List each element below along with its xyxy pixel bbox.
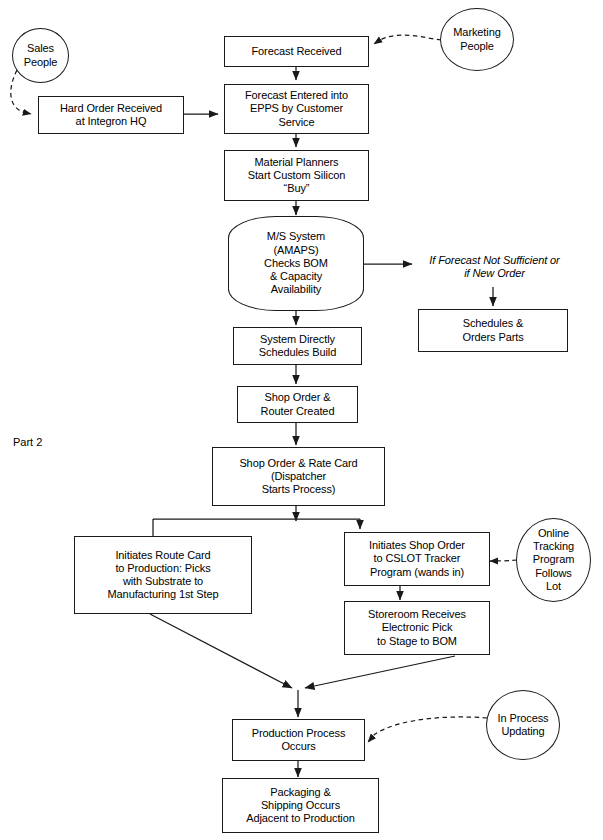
node-storeroom-receives-label: Storeroom Receives Electronic Pick to St…	[368, 608, 466, 648]
node-production-process-occurs[interactable]: Production Process Occurs	[232, 719, 365, 761]
node-schedules-orders-parts[interactable]: Schedules & Orders Parts	[418, 309, 568, 352]
node-material-planners-label: Material Planners Start Custom Silicon “…	[248, 156, 346, 196]
node-initiates-cslot-tracker[interactable]: Initiates Shop Order to CSLOT Tracker Pr…	[344, 532, 490, 586]
node-online-tracking-program-label: Online Tracking Program Follows Lot	[533, 527, 574, 593]
node-system-directly-schedules-build[interactable]: System Directly Schedules Build	[233, 327, 362, 365]
connector-in-process-to-production	[368, 717, 487, 742]
node-shop-order-router-created-label: Shop Order & Router Created	[261, 391, 335, 417]
node-initiates-cslot-tracker-label: Initiates Shop Order to CSLOT Tracker Pr…	[369, 539, 465, 579]
node-in-process-updating-label: In Process Updating	[498, 712, 549, 738]
node-forecast-received-label: Forecast Received	[251, 45, 341, 58]
node-shop-order-rate-card-label: Shop Order & Rate Card (Dispatcher Start…	[239, 457, 357, 497]
node-sales-people-label: Sales People	[24, 42, 58, 68]
node-in-process-updating[interactable]: In Process Updating	[486, 690, 560, 760]
node-initiates-route-card[interactable]: Initiates Route Card to Production: Pick…	[74, 536, 252, 614]
node-packaging-shipping[interactable]: Packaging & Shipping Occurs Adjacent to …	[222, 778, 379, 833]
node-forecast-condition-label: If Forecast Not Sufficient or if New Ord…	[429, 254, 559, 280]
node-online-tracking-program[interactable]: Online Tracking Program Follows Lot	[516, 518, 591, 602]
node-packaging-shipping-label: Packaging & Shipping Occurs Adjacent to …	[246, 786, 354, 826]
node-production-process-occurs-label: Production Process Occurs	[252, 727, 346, 753]
flowchart-canvas: Sales People Marketing People Forecast R…	[0, 0, 603, 840]
node-forecast-entered[interactable]: Forecast Entered into EPPS by Customer S…	[224, 84, 369, 134]
node-ms-system-label: M/S System (AMAPS) Checks BOM & Capacity…	[264, 230, 328, 296]
connector-route-card-to-junction	[150, 614, 292, 688]
node-ms-system[interactable]: M/S System (AMAPS) Checks BOM & Capacity…	[228, 216, 364, 311]
node-sales-people[interactable]: Sales People	[12, 28, 69, 83]
node-schedules-orders-parts-label: Schedules & Orders Parts	[462, 317, 523, 343]
node-shop-order-rate-card[interactable]: Shop Order & Rate Card (Dispatcher Start…	[212, 447, 385, 506]
connector-storeroom-to-junction	[305, 656, 455, 688]
node-marketing-people-label: Marketing People	[453, 26, 500, 52]
node-system-directly-schedules-build-label: System Directly Schedules Build	[259, 333, 336, 359]
node-hard-order-received[interactable]: Hard Order Received at Integron HQ	[38, 96, 184, 134]
connector-online-tracking-to-cslot	[490, 560, 517, 561]
node-material-planners[interactable]: Material Planners Start Custom Silicon “…	[224, 150, 369, 201]
node-storeroom-receives[interactable]: Storeroom Receives Electronic Pick to St…	[344, 601, 490, 655]
section-label-part-2: Part 2	[13, 436, 42, 449]
node-forecast-received[interactable]: Forecast Received	[224, 36, 369, 67]
node-hard-order-received-label: Hard Order Received at Integron HQ	[60, 102, 162, 128]
node-initiates-route-card-label: Initiates Route Card to Production: Pick…	[108, 549, 219, 602]
node-forecast-condition: If Forecast Not Sufficient or if New Ord…	[417, 252, 572, 282]
node-forecast-entered-label: Forecast Entered into EPPS by Customer S…	[245, 89, 348, 129]
connector-marketing-to-forecast	[374, 35, 441, 44]
node-shop-order-router-created[interactable]: Shop Order & Router Created	[237, 386, 358, 423]
node-marketing-people[interactable]: Marketing People	[440, 8, 514, 71]
